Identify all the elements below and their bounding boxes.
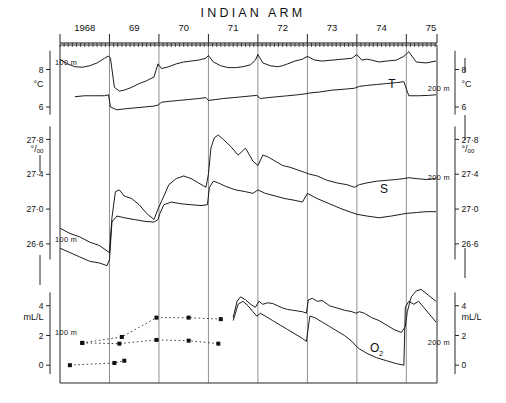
- data-point-marker: [219, 317, 223, 321]
- year-label: 1968: [74, 22, 95, 33]
- year-label: 71: [228, 22, 239, 33]
- axis-tick-label: 6: [39, 102, 44, 112]
- axis-oxygen-right: 420mL/L200 m: [428, 292, 482, 374]
- data-point-marker: [216, 342, 220, 346]
- axis-tick-label: 8: [462, 65, 467, 75]
- axis-tick-label: 0: [462, 360, 467, 370]
- data-point-marker: [154, 338, 158, 342]
- axis-tick-label: 4: [39, 301, 44, 311]
- figure-container: 196869707172737475INDIAN ARM86°C100 m86°…: [0, 0, 506, 403]
- year-label: 73: [327, 22, 338, 33]
- series-line-dotted: [82, 318, 221, 343]
- indian-arm-timeseries-chart: 196869707172737475INDIAN ARM86°C100 m86°…: [0, 0, 506, 403]
- axis-tick-label: 6: [462, 102, 467, 112]
- axis-salinity-right: 27·827·427·026·6°/ₒₒ200 m: [428, 126, 479, 259]
- depth-label: 200 m: [428, 84, 450, 93]
- axis-unit-label: mL/L: [462, 312, 482, 322]
- axis-unit-label: °/ₒₒ: [462, 144, 475, 154]
- oxygen-label-subscript: 2: [379, 349, 383, 358]
- data-point-marker: [112, 361, 116, 365]
- depth-label: 200 m: [428, 173, 450, 182]
- axis-tick-label: 0: [39, 360, 44, 370]
- depth-label: 100 m: [55, 58, 77, 67]
- year-label: 72: [277, 22, 288, 33]
- data-point-marker: [187, 339, 191, 343]
- series-line-dotted: [82, 340, 218, 344]
- axis-tick-label: 4: [462, 301, 467, 311]
- axis-tick-label: 2: [39, 331, 44, 341]
- depth-label: 100 m: [55, 235, 77, 244]
- axis-tick-label: 2: [462, 331, 467, 341]
- axis-unit-label: °C: [33, 79, 44, 89]
- data-point-marker: [122, 359, 126, 363]
- panel-label-salinity: S: [380, 182, 388, 196]
- axis-temperature-left: 86°C100 m: [33, 51, 77, 115]
- panel-temperature: [60, 52, 436, 110]
- axis-tick-label: 27·4: [26, 169, 43, 179]
- depth-label: 200 m: [428, 338, 450, 347]
- axis-unit-label: °/ₒₒ: [31, 144, 44, 154]
- series-line: [233, 301, 436, 365]
- series-line: [60, 52, 436, 91]
- axis-unit-label: °C: [462, 79, 473, 89]
- year-label: 75: [426, 22, 437, 33]
- year-label: 74: [376, 22, 387, 33]
- year-label: 69: [129, 22, 140, 33]
- chart-title: INDIAN ARM: [201, 6, 306, 20]
- axis-tick-label: 26·6: [462, 239, 479, 249]
- axis-tick-label: 27·8: [26, 135, 43, 145]
- axis-tick-label: 26·6: [26, 239, 43, 249]
- oxygen-label-main: O: [370, 341, 379, 355]
- axis-tick-label: 27·8: [462, 135, 479, 145]
- axis-tick-label: 8: [39, 65, 44, 75]
- data-point-marker: [187, 316, 191, 320]
- axis-tick-label: 27·4: [462, 169, 479, 179]
- data-point-marker: [154, 316, 158, 320]
- data-point-marker: [68, 363, 72, 367]
- panel-salinity: [60, 135, 436, 266]
- axis-tick-label: 27·0: [462, 204, 479, 214]
- panel-label-temperature: T: [388, 77, 396, 91]
- year-label: 70: [178, 22, 189, 33]
- axis-unit-label: mL/L: [23, 312, 43, 322]
- data-point-marker: [80, 341, 84, 345]
- series-line: [75, 82, 436, 110]
- data-point-marker: [120, 335, 124, 339]
- axis-salinity-left: 27·827·427·026·6°/ₒₒ100 m: [26, 126, 77, 259]
- data-point-marker: [117, 342, 121, 346]
- depth-label: 100 m: [55, 328, 77, 337]
- axis-tick-label: 27·0: [26, 204, 43, 214]
- axis-oxygen-left: 420mL/L100 m: [23, 292, 77, 374]
